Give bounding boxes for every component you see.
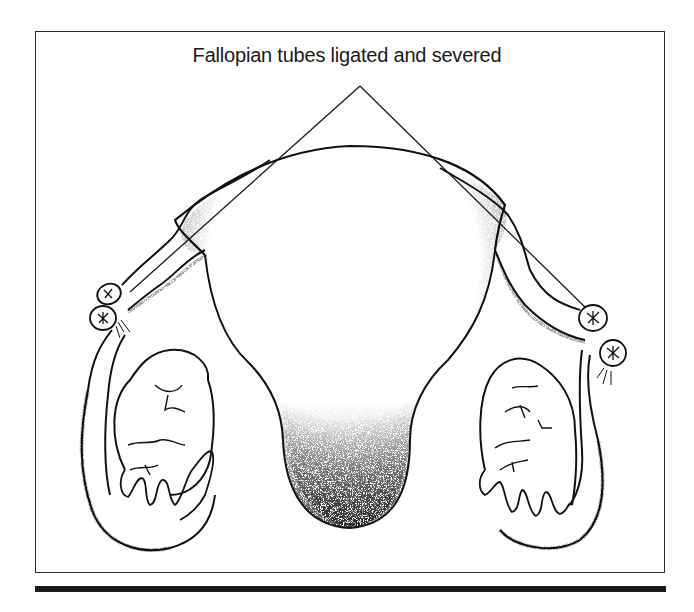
left-ovary — [114, 350, 213, 520]
uterus — [175, 146, 506, 528]
left-ligated-ends — [90, 280, 130, 338]
reproductive-anatomy-illustration — [0, 0, 694, 612]
right-ligated-ends — [579, 305, 626, 385]
right-ovary — [480, 359, 576, 516]
footer-rule — [35, 586, 666, 592]
